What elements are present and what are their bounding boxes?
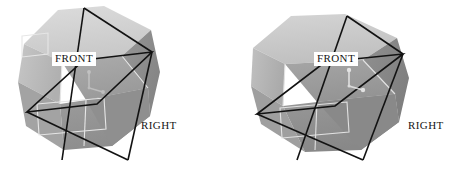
cube-view-b: FRONT RIGHT	[227, 0, 453, 175]
right-label: RIGHT	[141, 120, 177, 131]
front-label: FRONT	[52, 52, 96, 66]
right-label: RIGHT	[408, 120, 444, 131]
cube-b-render	[227, 0, 453, 175]
front-label: FRONT	[314, 52, 358, 66]
cube-a-render	[0, 0, 226, 175]
cube-view-a: FRONT RIGHT	[0, 0, 226, 175]
figure-root: FRONT RIGHT	[0, 0, 453, 175]
